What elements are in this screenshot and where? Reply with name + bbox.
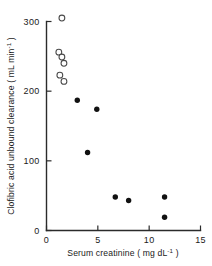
data-point-open [59, 54, 65, 60]
x-tick-label: 15 [195, 235, 206, 245]
x-axis-tick-labels: 051015 [44, 235, 206, 245]
data-points-open [56, 15, 67, 84]
x-tick-label: 10 [144, 235, 155, 245]
data-point-filled [126, 198, 131, 203]
x-tick-label: 5 [95, 235, 100, 245]
data-point-open [61, 79, 67, 85]
x-axis-ticks [47, 226, 201, 231]
data-point-filled [162, 215, 167, 220]
data-point-open [59, 15, 65, 21]
data-point-open [57, 72, 63, 78]
x-axis-title: Serum creatinine ( mg dL-1 ) [67, 247, 178, 258]
y-tick-label: 200 [24, 86, 40, 96]
x-tick-label: 0 [44, 235, 49, 245]
data-point-filled [113, 194, 118, 199]
y-axis-title: Clofibric acid unbound clearance ( mL mi… [5, 37, 16, 215]
data-point-open [61, 60, 67, 66]
data-point-filled [162, 194, 167, 199]
y-axis-tick-labels: 0100200300 [24, 17, 40, 236]
y-tick-label: 300 [24, 17, 40, 27]
y-axis-ticks [47, 22, 52, 231]
data-point-filled [75, 98, 80, 103]
scatter-plot-figure: 0100200300 051015 Serum creatinine ( mg … [0, 0, 212, 266]
y-tick-label: 100 [24, 156, 40, 166]
y-tick-label: 0 [34, 226, 39, 236]
plot-canvas: 0100200300 051015 Serum creatinine ( mg … [0, 0, 212, 266]
data-points-filled [75, 98, 168, 220]
data-point-filled [94, 107, 99, 112]
axes-frame [47, 22, 201, 231]
data-point-filled [85, 150, 90, 155]
